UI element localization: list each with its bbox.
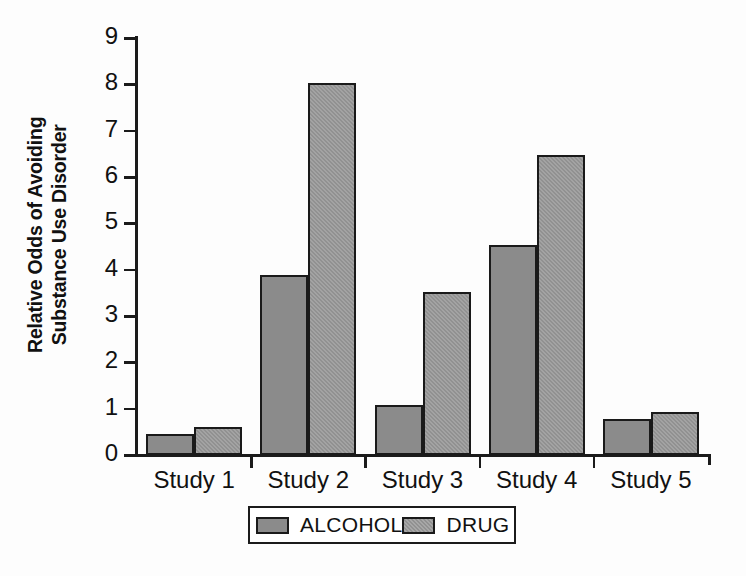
x-axis-label-study-5: Study 5 [581, 466, 721, 494]
y-axis-tick-label: 5 [86, 207, 118, 235]
y-axis-tick-label: 1 [86, 393, 118, 421]
y-axis-tick [124, 176, 136, 179]
y-axis-tick [124, 454, 136, 457]
y-axis-tick [124, 130, 136, 133]
y-axis-title-line-2: Substance Use Disorder [48, 117, 72, 353]
bar-study-3-alcohol [375, 405, 423, 455]
y-axis-line [135, 36, 138, 457]
y-axis-tick-label: 2 [86, 346, 118, 374]
legend: ALCOHOL DRUG [248, 506, 516, 544]
bar-study-4-drug [537, 155, 585, 455]
bar-study-2-alcohol [260, 275, 308, 455]
legend-entry-drug: DRUG [402, 513, 509, 537]
y-axis-tick [124, 315, 136, 318]
bar-study-4-alcohol [489, 245, 537, 455]
bar-study-1-alcohol [146, 434, 194, 455]
y-axis-tick-label: 4 [86, 254, 118, 282]
legend-swatch-drug-icon [402, 517, 435, 534]
y-axis-tick [124, 37, 136, 40]
y-axis-tick-label: 9 [86, 22, 118, 50]
y-axis-tick [124, 408, 136, 411]
bar-chart-figure: Relative Odds of Avoiding Substance Use … [0, 0, 746, 576]
bar-study-5-alcohol [603, 419, 651, 455]
y-axis-tick [124, 222, 136, 225]
y-axis-tick-label: 3 [86, 300, 118, 328]
bar-study-3-drug [423, 292, 471, 455]
bar-study-2-drug [308, 83, 356, 455]
y-axis-tick-label: 0 [86, 439, 118, 467]
legend-label-alcohol: ALCOHOL [300, 513, 402, 537]
bar-study-1-drug [194, 427, 242, 455]
y-axis-title-line-1: Relative Odds of Avoiding [24, 117, 48, 353]
y-axis-tick-label: 6 [86, 161, 118, 189]
y-axis-tick [124, 269, 136, 272]
x-axis-end-tick [708, 454, 711, 465]
legend-label-drug: DRUG [446, 513, 509, 537]
y-axis-tick [124, 361, 136, 364]
y-axis-tick-labels: 0123456789 [78, 0, 118, 576]
legend-entry-alcohol: ALCOHOL [256, 513, 402, 537]
y-axis-tick-label: 7 [86, 115, 118, 143]
legend-swatch-alcohol-icon [256, 517, 289, 534]
y-axis-tick-label: 8 [86, 68, 118, 96]
y-axis-tick [124, 83, 136, 86]
bar-study-5-drug [651, 412, 699, 455]
